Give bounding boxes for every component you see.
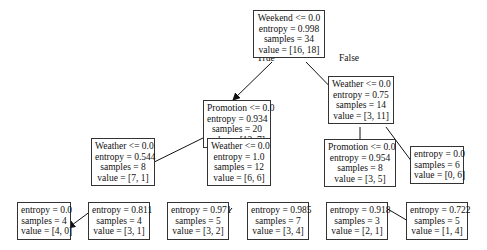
- node-entropy: entropy = 0.998: [257, 24, 321, 35]
- node-entropy: entropy = 0.722: [410, 205, 464, 216]
- node-split: Promotion <= 0.0: [328, 142, 392, 153]
- node-entropy: entropy = 0.934: [207, 114, 267, 125]
- tree-node-root: Weekend <= 0.0 entropy = 0.998 samples =…: [253, 10, 325, 58]
- node-split: Weather <= 0.0: [332, 79, 390, 90]
- node-samples: samples = 6: [414, 160, 460, 171]
- node-value: value = [3, 1]: [92, 226, 146, 237]
- tree-leaf: entropy = 0.985 samples = 7 value = [3, …: [247, 202, 309, 240]
- node-value: value = [1, 4]: [410, 226, 464, 237]
- node-value: value = [2, 1]: [330, 226, 384, 237]
- node-samples: samples = 7: [251, 216, 305, 227]
- node-samples: samples = 4: [92, 216, 146, 227]
- node-value: value = [4, 0]: [21, 226, 67, 237]
- node-value: value = [3, 5]: [328, 174, 392, 185]
- node-entropy: entropy = 0.0: [414, 149, 460, 160]
- node-entropy: entropy = 0.75: [332, 90, 390, 101]
- node-samples: samples = 4: [21, 216, 67, 227]
- tree-node-promotion-2: Promotion <= 0.0 entropy = 0.954 samples…: [324, 139, 396, 187]
- node-value: value = [6, 6]: [211, 173, 267, 184]
- node-value: value = [3, 4]: [251, 226, 305, 237]
- node-split: Promotion <= 0.0: [207, 103, 267, 114]
- node-value: value = [16, 18]: [257, 45, 321, 56]
- node-split: Weather <= 0.0: [95, 141, 151, 152]
- node-samples: samples = 5: [410, 216, 464, 227]
- node-entropy: entropy = 1.0: [211, 152, 267, 163]
- node-entropy: entropy = 0.954: [328, 153, 392, 164]
- tree-node-weather-right: Weather <= 0.0 entropy = 1.0 samples = 1…: [207, 138, 271, 186]
- node-samples: samples = 5: [171, 216, 225, 227]
- node-samples: samples = 8: [95, 162, 151, 173]
- node-samples: samples = 12: [211, 162, 267, 173]
- tree-leaf: entropy = 0.918 samples = 3 value = [2, …: [326, 202, 388, 240]
- node-value: value = [3, 2]: [171, 226, 225, 237]
- tree-node-weather-left: Weather <= 0.0 entropy = 0.544 samples =…: [91, 138, 155, 186]
- node-entropy: entropy = 0.0: [21, 205, 67, 216]
- tree-leaf: entropy = 0.722 samples = 5 value = [1, …: [406, 202, 468, 240]
- tree-node-weather: Weather <= 0.0 entropy = 0.75 samples = …: [328, 76, 394, 124]
- node-value: value = [7, 1]: [95, 173, 151, 184]
- node-entropy: entropy = 0.971: [171, 205, 225, 216]
- node-value: value = [0, 6]: [414, 170, 460, 181]
- node-samples: samples = 3: [330, 216, 384, 227]
- tree-leaf: entropy = 0.0 samples = 6 value = [0, 6]: [410, 146, 464, 184]
- node-entropy: entropy = 0.985: [251, 205, 305, 216]
- node-samples: samples = 14: [332, 100, 390, 111]
- node-split: Weather <= 0.0: [211, 141, 267, 152]
- node-entropy: entropy = 0.918: [330, 205, 384, 216]
- node-value: value = [3, 11]: [332, 111, 390, 122]
- node-split: Weekend <= 0.0: [257, 13, 321, 24]
- node-entropy: entropy = 0.811: [92, 205, 146, 216]
- node-samples: samples = 8: [328, 163, 392, 174]
- node-entropy: entropy = 0.544: [95, 152, 151, 163]
- node-samples: samples = 20: [207, 124, 267, 135]
- edge-label-false: False: [339, 53, 359, 63]
- tree-leaf: entropy = 0.971 samples = 5 value = [3, …: [167, 202, 229, 240]
- tree-leaf: entropy = 0.0 samples = 4 value = [4, 0]: [17, 202, 71, 240]
- node-samples: samples = 34: [257, 34, 321, 45]
- tree-leaf: entropy = 0.811 samples = 4 value = [3, …: [88, 202, 150, 240]
